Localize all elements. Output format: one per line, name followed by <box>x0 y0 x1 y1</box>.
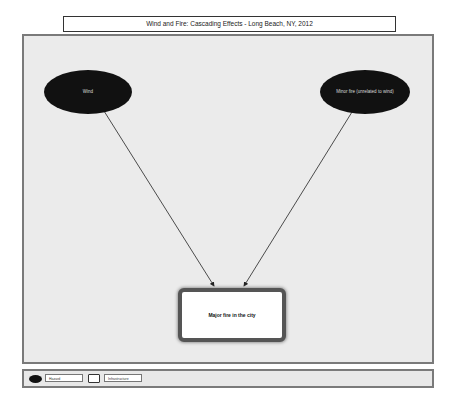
node-major-fire-label: Major fire in the city <box>208 312 255 318</box>
node-wind-label: Wind <box>83 89 93 95</box>
node-wind[interactable]: Wind <box>44 70 132 114</box>
edges <box>0 0 457 405</box>
legend-hazard-label: Hazard <box>45 374 83 382</box>
edge-wind-to-major-fire <box>104 111 214 286</box>
edge-minor-fire-to-major-fire <box>244 112 352 286</box>
node-minor-fire-label: Minor fire (unrelated to wind) <box>334 89 396 95</box>
legend-infrastructure-swatch-icon <box>88 374 100 383</box>
node-major-fire[interactable]: Major fire in the city <box>178 288 286 342</box>
legend: Hazard Infrastructure <box>22 369 434 388</box>
node-minor-fire[interactable]: Minor fire (unrelated to wind) <box>320 70 410 114</box>
legend-hazard-swatch-icon <box>29 375 42 383</box>
legend-infrastructure-label: Infrastructure <box>104 374 142 382</box>
